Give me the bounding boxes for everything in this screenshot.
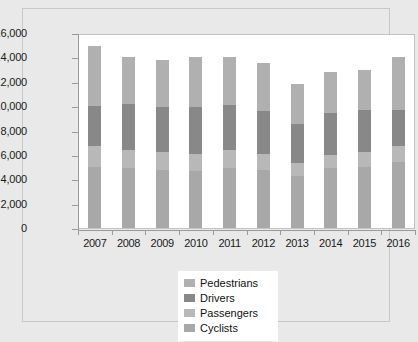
y-axis-tick-label: 16,000 xyxy=(0,28,27,39)
chart-frame: 16,00014,00012,00010,0008,0006,0004,0002… xyxy=(22,8,390,322)
bar-segment-pedestrians xyxy=(156,60,169,108)
bar-segment-drivers xyxy=(88,106,101,146)
bar-2014 xyxy=(324,72,337,228)
x-axis-tick xyxy=(415,230,416,235)
x-axis-tick xyxy=(213,230,214,235)
bar-segment-passengers xyxy=(156,152,169,169)
x-axis-tick xyxy=(314,230,315,235)
bar-2007 xyxy=(88,46,101,228)
y-axis-tick-label: 10,000 xyxy=(0,101,27,112)
bar-segment-pedestrians xyxy=(257,63,270,111)
bar-2013 xyxy=(291,84,304,228)
bar-segment-pedestrians xyxy=(324,72,337,113)
x-axis-tick xyxy=(179,230,180,235)
bar-2015 xyxy=(358,70,371,228)
legend-label: Pedestrians xyxy=(200,277,258,289)
x-axis-tick xyxy=(112,230,113,235)
bar-2008 xyxy=(122,57,135,228)
bar-segment-drivers xyxy=(223,105,236,150)
y-axis-tick-label: 4,000 xyxy=(0,174,27,185)
y-axis-line xyxy=(78,34,79,230)
bar-segment-drivers xyxy=(324,113,337,154)
legend-label: Drivers xyxy=(200,292,235,304)
y-axis-tick-label: 8,000 xyxy=(0,126,27,137)
legend-label: Cyclists xyxy=(200,322,238,334)
legend-swatch-icon xyxy=(184,294,195,302)
bar-segment-cyclists xyxy=(257,170,270,229)
bar-2009 xyxy=(156,60,169,228)
y-axis-tick-label: 12,000 xyxy=(0,77,27,88)
bar-segment-cyclists xyxy=(223,168,236,228)
bar-segment-drivers xyxy=(122,104,135,150)
bar-2011 xyxy=(223,57,236,228)
chart-legend: PedestriansDriversPassengersCyclists xyxy=(178,271,278,341)
y-axis-tick-label: 6,000 xyxy=(0,150,27,161)
bar-segment-drivers xyxy=(189,107,202,153)
bar-segment-drivers xyxy=(291,124,304,163)
bar-segment-cyclists xyxy=(122,168,135,228)
bar-segment-passengers xyxy=(122,150,135,168)
bar-segment-drivers xyxy=(156,107,169,152)
x-axis-tick xyxy=(381,230,382,235)
bar-2016 xyxy=(392,57,405,228)
bar-segment-passengers xyxy=(358,152,371,167)
bar-2010 xyxy=(189,57,202,228)
x-axis-tick-label: 2016 xyxy=(378,237,418,249)
bar-segment-passengers xyxy=(223,150,236,168)
legend-label: Passengers xyxy=(200,307,258,319)
legend-swatch-icon xyxy=(184,279,195,287)
bar-segment-pedestrians xyxy=(122,57,135,103)
y-axis-tick-label: 2,000 xyxy=(0,199,27,210)
x-axis-tick xyxy=(247,230,248,235)
y-axis-tick-label: 14,000 xyxy=(0,52,27,63)
bar-segment-cyclists xyxy=(358,167,371,228)
legend-item: Pedestrians xyxy=(184,276,272,290)
bar-2012 xyxy=(257,63,270,228)
bar-segment-cyclists xyxy=(156,170,169,229)
legend-swatch-icon xyxy=(184,309,195,317)
bar-segment-cyclists xyxy=(392,162,405,228)
bar-segment-passengers xyxy=(392,146,405,162)
bar-segment-passengers xyxy=(324,155,337,168)
legend-item: Passengers xyxy=(184,306,272,320)
bar-segment-cyclists xyxy=(88,167,101,228)
legend-item: Drivers xyxy=(184,291,272,305)
bar-segment-drivers xyxy=(392,110,405,147)
legend-swatch-icon xyxy=(184,324,195,332)
bar-segment-drivers xyxy=(358,110,371,153)
x-axis-tick xyxy=(280,230,281,235)
bar-segment-passengers xyxy=(257,154,270,170)
plot-area xyxy=(78,34,415,229)
bar-segment-cyclists xyxy=(291,176,304,228)
bar-segment-pedestrians xyxy=(223,57,236,105)
bar-segment-pedestrians xyxy=(291,84,304,124)
x-axis-tick xyxy=(78,230,79,235)
x-axis-tick xyxy=(145,230,146,235)
bar-segment-passengers xyxy=(291,163,304,175)
bar-segment-passengers xyxy=(88,146,101,167)
bar-segment-pedestrians xyxy=(358,70,371,110)
bar-segment-pedestrians xyxy=(392,57,405,109)
legend-item: Cyclists xyxy=(184,321,272,335)
bar-segment-drivers xyxy=(257,111,270,154)
bars-container xyxy=(78,35,414,228)
bar-segment-cyclists xyxy=(189,171,202,228)
bar-segment-pedestrians xyxy=(88,46,101,106)
bar-segment-pedestrians xyxy=(189,57,202,107)
x-axis-tick xyxy=(348,230,349,235)
y-axis-tick-label: 0 xyxy=(0,223,27,234)
bar-segment-passengers xyxy=(189,154,202,171)
bar-segment-cyclists xyxy=(324,168,337,228)
